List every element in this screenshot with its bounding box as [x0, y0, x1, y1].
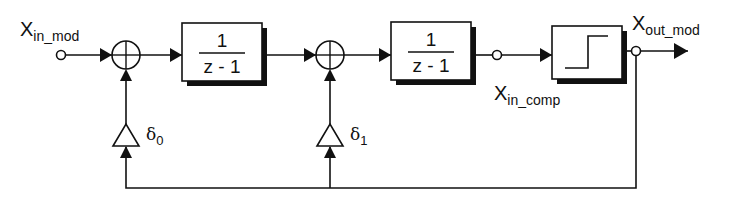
gain-0-symbol: δ — [146, 124, 156, 144]
svg-text:δ1: δ1 — [350, 124, 367, 148]
gain-1-symbol: δ — [350, 124, 360, 144]
gain-triangle-icon — [113, 124, 139, 146]
summing-junction-2 — [316, 41, 344, 69]
arrow-head-icon — [120, 69, 132, 81]
arrow-head-icon — [324, 146, 336, 158]
gain-triangle-icon — [317, 124, 343, 146]
input-label: Xin_mod — [20, 18, 79, 44]
arrow-head-icon — [170, 48, 182, 62]
gain-0-subscript: 0 — [156, 133, 163, 148]
arrow-head-icon — [120, 146, 132, 158]
arrow-head-icon — [540, 48, 552, 62]
output-label: Xout_mod — [632, 12, 700, 38]
summing-junction-1 — [112, 41, 140, 69]
integrator-2-denominator: z - 1 — [413, 55, 450, 76]
svg-text:δ0: δ0 — [146, 124, 163, 148]
comparator-input-terminal — [493, 51, 502, 60]
arrow-head-icon — [304, 48, 316, 62]
integrator-block-1: 1 z - 1 — [182, 23, 267, 86]
comparator-input-label: Xin_comp — [494, 82, 560, 108]
sigma-delta-modulator-diagram: Xin_mod 1 z - 1 1 z - 1 — [0, 0, 732, 202]
input-terminal — [57, 51, 66, 60]
gain-1-subscript: 1 — [360, 133, 367, 148]
gain-block-1: δ1 — [317, 69, 367, 158]
output-terminal — [632, 47, 641, 56]
integrator-1-denominator: z - 1 — [204, 56, 241, 77]
arrow-head-icon — [324, 69, 336, 81]
comparator-block — [552, 26, 627, 84]
output-arrow-icon — [674, 43, 688, 59]
arrow-head-icon — [100, 48, 112, 62]
gain-block-0: δ0 — [113, 69, 163, 158]
arrow-head-icon — [379, 48, 391, 62]
integrator-1-numerator: 1 — [217, 30, 228, 51]
integrator-block-2: 1 z - 1 — [391, 22, 476, 85]
integrator-2-numerator: 1 — [426, 29, 437, 50]
